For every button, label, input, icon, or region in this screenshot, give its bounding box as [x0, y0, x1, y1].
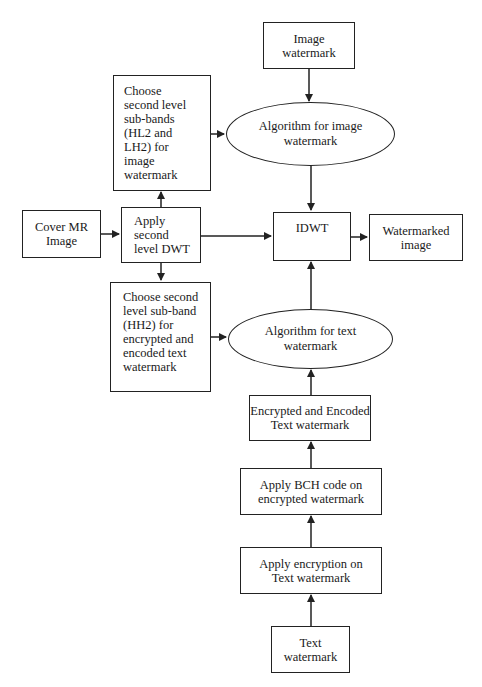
node-apply-encryption: Apply encryption on Text watermark: [240, 547, 382, 594]
node-choose-hh2: Choose second level sub-band (HH2) for e…: [110, 282, 211, 392]
node-text-watermark: Text watermark: [271, 626, 350, 673]
node-text: Text watermark: [271, 418, 350, 432]
node-text: watermark: [284, 339, 337, 354]
node-text: Image: [46, 234, 77, 248]
node-idwt: IDWT: [273, 212, 351, 261]
node-choose-hl2-lh2: Choose second level sub-bands (HL2 and L…: [113, 75, 211, 191]
node-apply-bch: Apply BCH code on encrypted watermark: [240, 468, 382, 515]
node-text: Text: [299, 636, 321, 650]
node-text: Choose: [124, 84, 162, 98]
node-text: Encrypted and Encoded: [250, 404, 369, 418]
node-encrypted-encoded: Encrypted and Encoded Text watermark: [249, 395, 371, 441]
node-text: Watermarked: [382, 224, 449, 238]
node-cover-mr-image: Cover MR Image: [22, 210, 101, 258]
node-algorithm-image: Algorithm for image watermark: [226, 102, 395, 166]
node-image-watermark: Image watermark: [263, 22, 355, 69]
node-text: Image: [293, 32, 324, 46]
node-text: level DWT: [134, 242, 190, 256]
node-text: encrypted watermark: [258, 492, 364, 506]
node-text: watermark: [284, 134, 337, 149]
node-text: LH2) for: [124, 140, 169, 154]
node-watermarked-image: Watermarked image: [369, 214, 463, 261]
node-text: (HH2) for: [123, 318, 173, 332]
node-text: second level: [124, 98, 186, 112]
node-text: encoded text: [123, 346, 187, 360]
node-text: watermark: [124, 168, 177, 182]
node-text: Algorithm for text: [265, 324, 357, 339]
node-text: Apply BCH code on: [260, 478, 362, 492]
node-text: level sub-band: [123, 304, 196, 318]
node-text: (HL2 and: [124, 126, 172, 140]
node-text: Text watermark: [272, 571, 351, 585]
node-text: image: [401, 238, 432, 252]
node-text: Cover MR: [35, 220, 88, 234]
node-text: watermark: [282, 46, 335, 60]
node-text: Apply: [134, 214, 165, 228]
node-text: watermark: [284, 650, 337, 664]
node-text: image: [124, 154, 155, 168]
node-text: sub-bands: [124, 112, 175, 126]
node-apply-dwt: Apply second level DWT: [121, 207, 201, 263]
node-text: second: [134, 228, 169, 242]
node-text: Algorithm for image: [259, 119, 362, 134]
node-text: IDWT: [296, 221, 329, 235]
node-algorithm-text: Algorithm for text watermark: [228, 309, 393, 369]
node-text: encrypted and: [123, 332, 193, 346]
node-text: Choose second: [123, 290, 198, 304]
node-text: Apply encryption on: [259, 557, 362, 571]
node-text: watermark: [123, 360, 176, 374]
